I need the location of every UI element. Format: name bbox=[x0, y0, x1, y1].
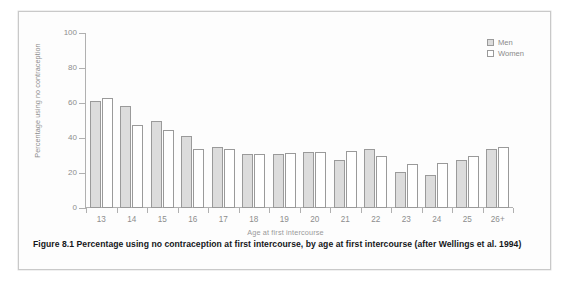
legend-label-men: Men bbox=[498, 38, 513, 47]
x-axis-tick-label-15: 15 bbox=[147, 215, 178, 224]
bar-women-age-13 bbox=[102, 98, 113, 208]
bar-men-age-26plus bbox=[486, 149, 497, 208]
bar-women-age-17 bbox=[224, 149, 235, 209]
bar-men-age-15 bbox=[151, 121, 162, 209]
x-axis-tick bbox=[300, 208, 301, 213]
x-axis-tick-label-13: 13 bbox=[86, 215, 117, 224]
legend-entry-women: Women bbox=[487, 49, 524, 58]
x-axis-tick bbox=[269, 208, 270, 213]
bar-women-age-22 bbox=[376, 156, 387, 208]
bar-men-age-23 bbox=[395, 172, 406, 208]
x-axis-tick bbox=[147, 208, 148, 213]
legend-swatch-men-icon bbox=[487, 39, 494, 46]
x-axis-tick bbox=[391, 208, 392, 213]
x-axis-tick-label-19: 19 bbox=[269, 215, 300, 224]
bar-women-age-20 bbox=[315, 152, 326, 208]
x-axis-tick bbox=[178, 208, 179, 213]
y-axis-tick-label: 0 bbox=[33, 203, 77, 212]
x-axis-tick-label-20: 20 bbox=[300, 215, 331, 224]
bar-women-age-24 bbox=[437, 163, 448, 209]
y-axis-tick-label: 100 bbox=[33, 28, 77, 37]
bar-women-age-15 bbox=[163, 130, 174, 208]
x-axis-tick-label-23: 23 bbox=[391, 215, 422, 224]
bar-men-age-17 bbox=[212, 147, 223, 208]
y-axis-tick-label: 60 bbox=[33, 98, 77, 107]
figure-caption: Figure 8.1 Percentage using no contracep… bbox=[33, 238, 538, 251]
legend-label-women: Women bbox=[498, 49, 524, 58]
x-axis-tick bbox=[513, 208, 514, 213]
bar-men-age-22 bbox=[364, 149, 375, 208]
x-axis-tick bbox=[330, 208, 331, 213]
x-axis-tick bbox=[208, 208, 209, 213]
x-axis-tick bbox=[361, 208, 362, 213]
x-axis-tick-label-17: 17 bbox=[208, 215, 239, 224]
legend-entry-men: Men bbox=[487, 38, 524, 47]
x-axis-tick-label-14: 14 bbox=[117, 215, 148, 224]
bar-men-age-16 bbox=[181, 136, 192, 208]
y-axis-tick bbox=[79, 173, 86, 174]
bar-men-age-21 bbox=[334, 160, 345, 208]
bar-men-age-25 bbox=[456, 160, 467, 208]
caption-divider bbox=[19, 233, 552, 234]
bar-men-age-19 bbox=[273, 154, 284, 208]
y-axis-tick-label: 80 bbox=[33, 63, 77, 72]
bar-men-age-14 bbox=[120, 106, 131, 208]
bar-women-age-14 bbox=[132, 125, 143, 208]
chart-plot-region: Percentage using no contraception 020406… bbox=[19, 12, 552, 230]
bar-men-age-13 bbox=[90, 101, 101, 208]
x-axis-tick bbox=[452, 208, 453, 213]
bar-men-age-24 bbox=[425, 175, 436, 208]
y-axis-tick-label: 40 bbox=[33, 133, 77, 142]
y-axis-tick bbox=[79, 138, 86, 139]
bars-layer bbox=[86, 33, 513, 208]
bar-women-age-26plus bbox=[498, 147, 509, 208]
bar-women-age-19 bbox=[285, 153, 296, 208]
chart-legend: Men Women bbox=[487, 38, 524, 60]
bar-women-age-25 bbox=[468, 156, 479, 208]
x-axis-tick-label-18: 18 bbox=[239, 215, 270, 224]
bar-men-age-18 bbox=[242, 154, 253, 208]
x-axis-tick-label-21: 21 bbox=[330, 215, 361, 224]
y-axis-tick bbox=[79, 33, 86, 34]
x-axis-tick bbox=[422, 208, 423, 213]
legend-swatch-women-icon bbox=[487, 50, 494, 57]
x-axis-tick-label-25: 25 bbox=[452, 215, 483, 224]
y-axis-tick bbox=[79, 103, 86, 104]
y-axis-tick bbox=[79, 208, 86, 209]
bar-women-age-18 bbox=[254, 154, 265, 208]
x-axis-tick bbox=[86, 208, 87, 213]
x-axis-tick bbox=[239, 208, 240, 213]
bar-women-age-23 bbox=[407, 164, 418, 208]
figure-card: Percentage using no contraception 020406… bbox=[18, 11, 551, 270]
bar-men-age-20 bbox=[303, 152, 314, 208]
x-axis-tick-label-26plus: 26+ bbox=[483, 215, 514, 224]
x-axis-tick-label-24: 24 bbox=[422, 215, 453, 224]
y-axis-tick-label: 20 bbox=[33, 168, 77, 177]
x-axis-tick-label-22: 22 bbox=[361, 215, 392, 224]
x-axis-tick bbox=[483, 208, 484, 213]
bar-women-age-21 bbox=[346, 151, 357, 208]
x-axis-tick bbox=[117, 208, 118, 213]
bar-women-age-16 bbox=[193, 149, 204, 209]
y-axis-tick bbox=[79, 68, 86, 69]
x-axis-tick-label-16: 16 bbox=[178, 215, 209, 224]
